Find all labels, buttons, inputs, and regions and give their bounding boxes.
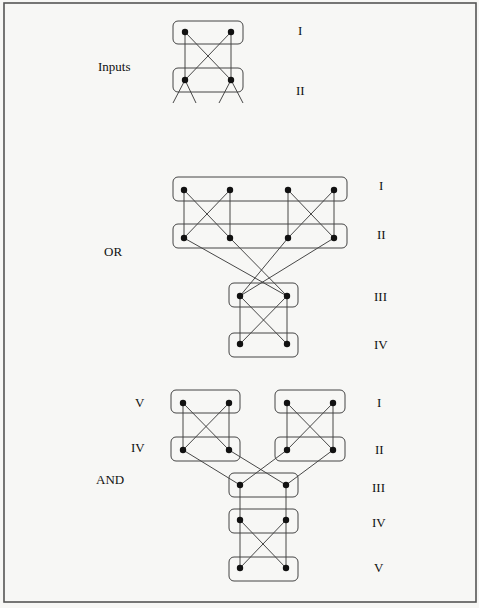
connection-line xyxy=(286,450,333,485)
node-dot xyxy=(227,235,233,241)
level-label-or-iv: IV xyxy=(374,337,388,352)
node-dot xyxy=(228,29,234,35)
group-box-or-i xyxy=(173,177,347,201)
node-dot xyxy=(331,235,337,241)
node-dot xyxy=(237,517,243,523)
node-dot xyxy=(283,565,289,571)
node-dot xyxy=(237,341,243,347)
node-dot xyxy=(180,400,186,406)
level-label-and-v: V xyxy=(374,560,384,575)
labels-layer: Inputs OR AND IIIIIIIIIIVIIIIIIIVVVIV xyxy=(96,23,388,575)
node-dot xyxy=(330,400,336,406)
connection-line xyxy=(229,450,286,485)
level-label-and-iii: III xyxy=(372,480,385,495)
node-dot xyxy=(182,77,188,83)
node-dot xyxy=(331,187,337,193)
node-dot xyxy=(285,187,291,193)
connection-line xyxy=(240,238,288,296)
level-label-and-iv: IV xyxy=(372,515,386,530)
level-label-and-i: I xyxy=(377,395,381,410)
node-dot xyxy=(226,447,232,453)
node-dot xyxy=(180,447,186,453)
level-label-and-ii: II xyxy=(375,442,384,457)
side-label-and-iv: IV xyxy=(131,440,145,455)
level-label-or-ii: II xyxy=(377,227,386,242)
node-dot xyxy=(227,187,233,193)
diagram-canvas: Inputs OR AND IIIIIIIIIIVIIIIIIIVVVIV xyxy=(0,0,479,608)
connection-line xyxy=(240,450,287,485)
node-dot xyxy=(284,400,290,406)
section-label-and: AND xyxy=(96,472,124,487)
node-dot xyxy=(283,482,289,488)
node-dot xyxy=(237,482,243,488)
node-dot xyxy=(182,29,188,35)
nodes-layer xyxy=(180,29,337,571)
level-label-inputs-ii: II xyxy=(296,83,305,98)
node-dot xyxy=(284,341,290,347)
edges-layer xyxy=(173,32,334,568)
connection-line xyxy=(230,238,287,296)
node-dot xyxy=(237,293,243,299)
node-dot xyxy=(285,235,291,241)
group-boxes-layer xyxy=(171,21,347,581)
node-dot xyxy=(283,517,289,523)
connection-line xyxy=(240,238,334,296)
level-label-or-iii: III xyxy=(374,289,387,304)
node-dot xyxy=(228,77,234,83)
level-label-or-i: I xyxy=(379,178,383,193)
section-label-inputs: Inputs xyxy=(98,59,131,74)
side-label-and-v: V xyxy=(135,395,145,410)
node-dot xyxy=(181,187,187,193)
node-dot xyxy=(330,447,336,453)
node-dot xyxy=(237,565,243,571)
group-box-or-ii xyxy=(173,224,347,248)
level-label-inputs-i: I xyxy=(298,23,302,38)
connection-line xyxy=(183,450,240,485)
node-dot xyxy=(181,235,187,241)
node-dot xyxy=(284,447,290,453)
node-dot xyxy=(226,400,232,406)
section-label-or: OR xyxy=(104,244,122,259)
connection-line xyxy=(184,238,287,296)
node-dot xyxy=(284,293,290,299)
